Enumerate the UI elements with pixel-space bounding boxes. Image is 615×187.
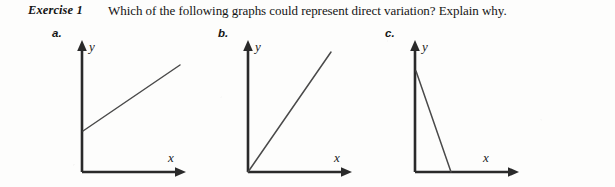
worksheet-page: Exercise 1 Which of the following graphs… xyxy=(0,0,615,187)
x-axis-label-a: x xyxy=(167,150,174,165)
x-axis-arrow-c xyxy=(508,167,519,177)
graph-b: y x xyxy=(226,36,356,181)
y-axis-arrow-a xyxy=(77,40,87,51)
question-text: Which of the following graphs could repr… xyxy=(108,3,507,19)
plot-line-b xyxy=(248,52,331,172)
plot-line-a xyxy=(83,65,180,131)
y-axis-label-b: y xyxy=(253,39,261,54)
y-axis-label-c: y xyxy=(420,39,428,54)
y-axis-arrow-c xyxy=(410,40,420,51)
graph-a: y x xyxy=(60,36,190,181)
x-axis-label-c: x xyxy=(482,150,489,165)
exercise-label: Exercise 1 xyxy=(28,3,83,18)
plot-line-c xyxy=(416,71,451,172)
graph-c: y x xyxy=(393,36,523,181)
y-axis-label-a: y xyxy=(87,39,95,54)
x-axis-arrow-a xyxy=(175,167,186,177)
x-axis-arrow-b xyxy=(341,167,352,177)
x-axis-label-b: x xyxy=(333,150,340,165)
y-axis-arrow-b xyxy=(243,40,253,51)
